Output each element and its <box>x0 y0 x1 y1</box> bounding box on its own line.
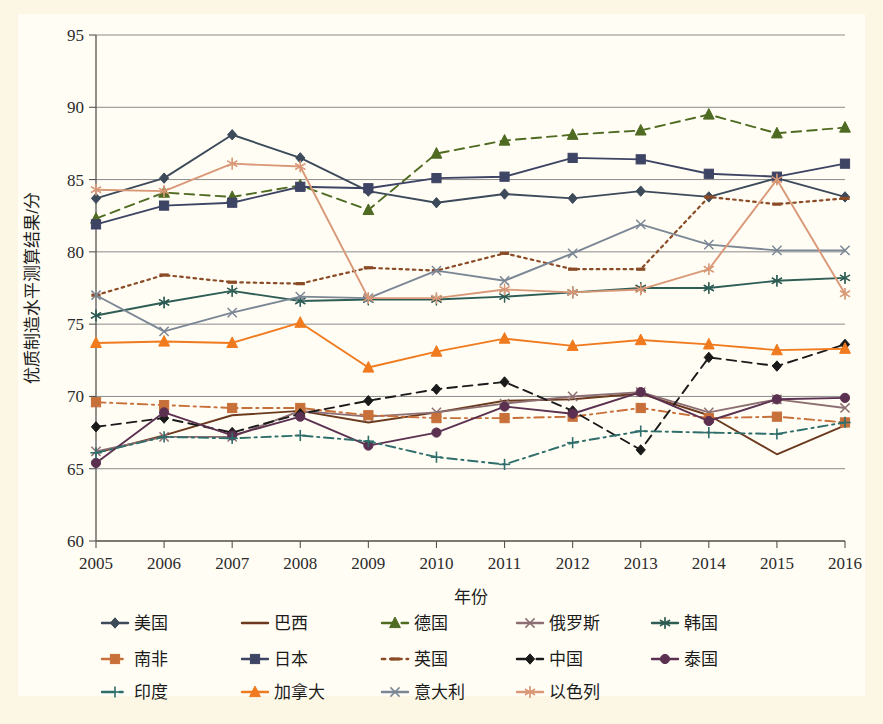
marker-square-南非 <box>432 414 441 423</box>
marker-plus-印度 <box>703 427 714 438</box>
legend-item-韩国[interactable]: 韩国 <box>652 614 718 633</box>
legend-item-印度[interactable]: 印度 <box>102 683 168 702</box>
legend-item-中国[interactable]: 中国 <box>517 650 583 669</box>
legend-label-以色列: 以色列 <box>549 683 600 702</box>
gridlines-group <box>96 35 845 541</box>
marker-circle-legend-泰国 <box>660 654 669 663</box>
legend-label-意大利: 意大利 <box>414 683 465 702</box>
series-日本 <box>91 153 849 229</box>
marker-triangle-加拿大 <box>499 333 510 344</box>
xtick-label-2015: 2015 <box>760 554 794 573</box>
marker-square-日本 <box>91 220 100 229</box>
marker-circle-泰国 <box>159 408 168 417</box>
marker-square-南非 <box>228 403 237 412</box>
ytick-label-95: 95 <box>67 26 84 45</box>
marker-circle-泰国 <box>500 402 509 411</box>
marker-circle-泰国 <box>91 458 100 467</box>
marker-square-legend-日本 <box>250 654 259 663</box>
xtick-label-2016: 2016 <box>828 554 862 573</box>
marker-square-日本 <box>364 184 373 193</box>
series-美国 <box>91 130 849 208</box>
series-line-中国 <box>96 344 845 450</box>
series-line-美国 <box>96 135 845 203</box>
marker-diamond-legend-中国 <box>525 654 534 664</box>
marker-plus-印度 <box>431 452 442 463</box>
xtick-label-2008: 2008 <box>283 554 317 573</box>
legend-group: 美国巴西德国俄罗斯韩国南非日本英国中国泰国印度加拿大意大利以色列 <box>102 614 718 702</box>
marker-diamond-中国 <box>500 377 509 387</box>
legend-item-意大利[interactable]: 意大利 <box>382 683 465 702</box>
marker-plus-印度 <box>567 437 578 448</box>
ytick-label-90: 90 <box>67 98 84 117</box>
marker-circle-泰国 <box>704 416 713 425</box>
series-line-巴西 <box>96 394 845 455</box>
series-line-韩国 <box>96 278 845 316</box>
marker-triangle-德国 <box>363 204 374 215</box>
marker-diamond-中国 <box>636 445 645 455</box>
legend-item-南非[interactable]: 南非 <box>102 650 168 669</box>
marker-dash-英国 <box>636 268 645 271</box>
legend-item-以色列[interactable]: 以色列 <box>517 683 600 702</box>
series-韩国 <box>91 272 850 321</box>
chart-figure: 6065707580859095200520062007200820092010… <box>0 0 883 724</box>
marker-square-日本 <box>840 159 849 168</box>
legend-label-南非: 南非 <box>134 650 168 669</box>
xtick-label-2007: 2007 <box>215 554 250 573</box>
marker-diamond-美国 <box>636 186 645 196</box>
marker-diamond-美国 <box>568 193 577 203</box>
marker-diamond-中国 <box>91 422 100 432</box>
marker-dash-英国 <box>704 195 713 198</box>
legend-item-加拿大[interactable]: 加拿大 <box>242 682 325 702</box>
xtick-label-2014: 2014 <box>692 554 727 573</box>
marker-square-南非 <box>91 398 100 407</box>
marker-dash-英国 <box>772 203 781 206</box>
marker-square-日本 <box>568 153 577 162</box>
marker-square-日本 <box>296 182 305 191</box>
ytick-label-80: 80 <box>67 243 84 262</box>
legend-label-巴西: 巴西 <box>274 614 308 633</box>
legend-label-加拿大: 加拿大 <box>274 682 325 702</box>
series-巴西 <box>96 394 845 455</box>
marker-diamond-美国 <box>228 130 237 140</box>
series-德国 <box>91 109 851 224</box>
marker-dash-英国 <box>568 268 577 271</box>
marker-square-日本 <box>704 169 713 178</box>
ytick-label-70: 70 <box>67 387 84 406</box>
marker-diamond-美国 <box>159 173 168 183</box>
legend-item-美国[interactable]: 美国 <box>102 614 168 633</box>
legend-item-英国[interactable]: 英国 <box>382 650 448 669</box>
legend-item-俄罗斯[interactable]: 俄罗斯 <box>517 614 600 633</box>
legend-item-泰国[interactable]: 泰国 <box>652 650 718 669</box>
marker-dash-英国 <box>840 197 849 200</box>
series-line-意大利 <box>96 224 845 331</box>
marker-square-日本 <box>159 201 168 210</box>
xtick-label-2005: 2005 <box>79 554 113 573</box>
x-axis-title: 年份 <box>454 588 488 607</box>
legend-label-印度: 印度 <box>134 683 168 702</box>
marker-square-日本 <box>500 172 509 181</box>
xtick-label-2010: 2010 <box>419 554 453 573</box>
series-印度 <box>90 417 850 470</box>
marker-diamond-美国 <box>500 189 509 199</box>
marker-dash-legend-英国 <box>390 657 399 660</box>
series-line-以色列 <box>96 164 845 298</box>
legend-item-德国[interactable]: 德国 <box>382 614 448 633</box>
legend-item-日本[interactable]: 日本 <box>242 650 308 669</box>
marker-square-南非 <box>636 403 645 412</box>
marker-dash-英国 <box>296 282 305 285</box>
marker-diamond-美国 <box>432 198 441 208</box>
series-俄罗斯 <box>91 387 849 455</box>
legend-label-德国: 德国 <box>414 614 448 633</box>
legend-label-中国: 中国 <box>549 650 583 669</box>
series-加拿大 <box>91 317 851 372</box>
marker-triangle-德国 <box>703 109 714 120</box>
legend-label-俄罗斯: 俄罗斯 <box>549 614 600 633</box>
marker-plus-印度 <box>635 426 646 437</box>
ytick-label-60: 60 <box>67 532 84 551</box>
marker-plus-印度 <box>771 428 782 439</box>
legend-label-英国: 英国 <box>414 650 448 669</box>
xtick-label-2012: 2012 <box>556 554 590 573</box>
series-group <box>90 109 850 470</box>
legend-item-巴西[interactable]: 巴西 <box>242 614 308 633</box>
marker-circle-泰国 <box>636 387 645 396</box>
